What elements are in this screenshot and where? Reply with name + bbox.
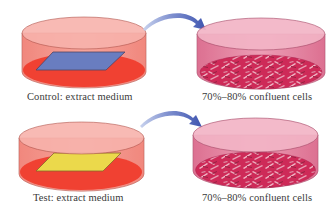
test-dish-label: Test: extract medium	[33, 192, 124, 203]
control-dish-label: Control: extract medium	[27, 91, 133, 102]
test-dish	[19, 122, 144, 191]
control-arrow	[143, 13, 206, 31]
control-dish-rim	[22, 17, 146, 49]
arrow-right-curved-icon	[140, 111, 202, 128]
test-confluent-dish	[193, 118, 318, 188]
test-arrow	[140, 111, 202, 128]
test-dish-rim	[19, 122, 144, 154]
control-confluent-label: 70%–80% confluent cells	[202, 91, 312, 102]
control-confluent-dish	[197, 18, 325, 89]
control-confluent-dish-rim	[197, 18, 325, 50]
test-confluent-label: 70%–80% confluent cells	[202, 192, 312, 203]
test-confluent-dish-rim	[193, 118, 318, 152]
control-dish	[22, 17, 146, 88]
arrow-right-curved-icon	[143, 13, 206, 31]
cell-culture-diagram	[0, 0, 335, 210]
